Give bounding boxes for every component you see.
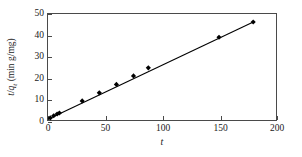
y-axis-label: t/qt (min g/mg) <box>6 13 19 121</box>
y-tick-label-40: 40 <box>35 31 45 41</box>
x-tick-label-50: 50 <box>101 124 111 134</box>
y-tick-label-0: 0 <box>39 117 44 127</box>
data-layer <box>48 14 276 120</box>
y-tick-label-50: 50 <box>35 9 45 19</box>
data-point <box>146 65 151 70</box>
fit-line-path <box>48 21 254 119</box>
x-tick-label-200: 200 <box>270 124 284 134</box>
y-tick-label-20: 20 <box>35 74 45 84</box>
x-tick-label-150: 150 <box>213 124 227 134</box>
x-tick-label-0: 0 <box>46 124 51 134</box>
fit-line <box>48 21 254 119</box>
y-tick-label-10: 10 <box>35 96 45 106</box>
plot-area: 0 10 20 30 40 50 0 50 100 150 200 <box>47 13 277 121</box>
x-tick-label-100: 100 <box>156 124 170 134</box>
x-axis-label: t <box>47 136 277 147</box>
y-tick-label-30: 30 <box>35 52 45 62</box>
data-point <box>251 20 256 25</box>
chart-figure: t/qt (min g/mg) 0 10 20 30 40 50 0 50 1 <box>0 0 302 157</box>
x-tick-200: 200 <box>277 116 278 120</box>
y-axis-label-text: t/qt (min g/mg) <box>6 38 19 95</box>
